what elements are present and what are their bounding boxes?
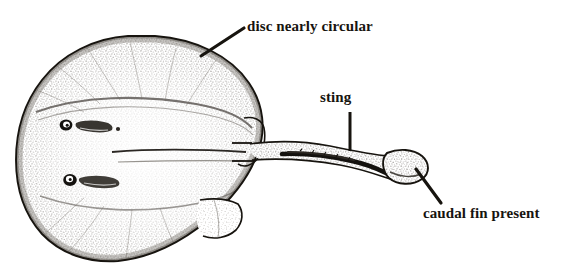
- disc-shape: [10, 30, 280, 269]
- annotation-label-caudal-fin-present: caudal fin present: [423, 206, 540, 221]
- leader-line-caudal: [416, 169, 441, 203]
- leader-line-disc: [201, 28, 244, 56]
- annotation-label-disc-nearly-circular: disc nearly circular: [247, 19, 373, 34]
- stingray-illustration: [0, 0, 568, 269]
- annotation-label-sting: sting: [320, 90, 351, 105]
- eye-lower: [63, 174, 77, 186]
- eye-upper: [60, 119, 73, 130]
- figure-container: disc nearly circular sting caudal fin pr…: [0, 0, 568, 269]
